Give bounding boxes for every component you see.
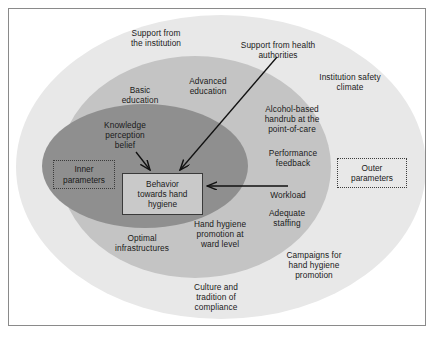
behavior-towards-hand-hygiene-box[interactable]: Behavior towards hand hygiene <box>122 173 203 215</box>
label-advanced-education: Advanced education <box>168 76 248 96</box>
outer-parameters-box[interactable]: Outer parameters <box>337 158 407 188</box>
label-support-from-the-institution: Support from the institution <box>108 28 204 48</box>
label-basic-education: Basic education <box>107 85 173 105</box>
label-culture-and-tradition-of-compliance: Culture and tradition of compliance <box>175 282 257 313</box>
label-campaigns-for-hand-hygiene-promotion: Campaigns for hand hygiene promotion <box>268 250 360 281</box>
label-workload: Workload <box>255 190 321 200</box>
label-performance-feedback: Performance feedback <box>253 148 333 168</box>
label-knowledge-perception-belief: Knowledge perception belief <box>87 120 163 151</box>
label-institution-safety-climate: Institution safety climate <box>300 72 400 92</box>
figure-container: Support from the institution Support fro… <box>0 0 435 337</box>
label-support-from-health-authorities: Support from health authorities <box>222 40 334 60</box>
inner-parameters-box[interactable]: Inner parameters <box>53 160 115 189</box>
label-alcohol-based-handrub: Alcohol-based handrub at the point-of-ca… <box>245 104 339 135</box>
label-optimal-infrastructures: Optimal infrastructures <box>95 233 189 253</box>
